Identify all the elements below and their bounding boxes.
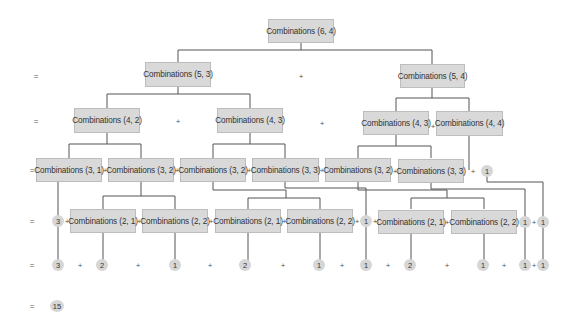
node-label: Combinations (5, 4) xyxy=(398,72,468,81)
value-circle: 1 xyxy=(169,259,181,271)
value-circle: 1 xyxy=(481,165,493,177)
node-label: Combinations (4, 3) xyxy=(215,116,285,125)
node-combinations-5-4: Combinations (5, 4) xyxy=(400,64,465,88)
plus-sign: + xyxy=(532,261,537,270)
node-label: Combinations (3, 2) xyxy=(106,166,176,175)
value-text: 2 xyxy=(408,261,412,270)
node-combinations-2-2: Combinations (2, 2) xyxy=(142,209,208,233)
total-value-text: 15 xyxy=(53,302,61,311)
node-combinations-3-1: Combinations (3, 1) xyxy=(36,158,102,182)
plus-sign: + xyxy=(355,217,360,226)
node-label: Combinations (2, 1) xyxy=(213,217,283,226)
plus-sign: + xyxy=(176,117,181,126)
value-circle: 2 xyxy=(96,259,108,271)
node-label: Combinations (4, 4) xyxy=(435,119,505,128)
plus-sign: + xyxy=(320,119,325,128)
node-label: Combinations (4, 3) xyxy=(361,119,431,128)
node-combinations-3-3: Combinations (3, 3) xyxy=(252,158,319,182)
value-text: 1 xyxy=(364,217,368,226)
value-circle: 3 xyxy=(52,215,64,227)
value-circle: 1 xyxy=(519,259,531,271)
node-label: Combinations (2, 2) xyxy=(285,217,355,226)
value-text: 1 xyxy=(541,261,545,270)
node-combinations-2-1: Combinations (2, 1) xyxy=(215,209,281,233)
node-label: Combinations (3, 2) xyxy=(323,166,393,175)
plus-sign: + xyxy=(208,261,213,270)
value-text: 1 xyxy=(317,261,321,270)
node-combinations-5-3: Combinations (5, 3) xyxy=(145,62,211,87)
value-circle: 1 xyxy=(313,259,325,271)
node-combinations-2-1: Combinations (2, 1) xyxy=(378,210,444,234)
value-text: 3 xyxy=(56,217,60,226)
plus-sign: + xyxy=(78,261,83,270)
plus-sign: + xyxy=(532,218,537,227)
value-text: 1 xyxy=(523,261,527,270)
value-text: 1 xyxy=(541,218,545,227)
value-text: 1 xyxy=(481,261,485,270)
value-text: 1 xyxy=(523,218,527,227)
value-circle: 2 xyxy=(404,259,416,271)
node-label: Combinations (2, 1) xyxy=(376,218,446,227)
node-combinations-6-4: Combinations (6, 4) xyxy=(268,19,334,43)
value-circle: 1 xyxy=(537,216,549,228)
value-text: 1 xyxy=(364,261,368,270)
equals-sign: = xyxy=(34,72,39,81)
value-circle: 3 xyxy=(52,259,64,271)
value-text: 3 xyxy=(56,261,60,270)
value-text: 2 xyxy=(243,261,247,270)
value-circle: 2 xyxy=(239,259,251,271)
node-label: Combinations (3, 3) xyxy=(396,167,466,176)
node-combinations-3-2: Combinations (3, 2) xyxy=(325,158,391,182)
node-combinations-3-2: Combinations (3, 2) xyxy=(180,158,246,182)
combinations-tree-diagram: Combinations (6, 4) = Combinations (5, 3… xyxy=(0,0,573,315)
plus-sign: + xyxy=(281,261,286,270)
node-label: Combinations (3, 2) xyxy=(178,166,248,175)
value-circle: 1 xyxy=(477,259,489,271)
node-label: Combinations (6, 4) xyxy=(266,27,336,36)
node-label: Combinations (2, 2) xyxy=(449,218,519,227)
node-combinations-4-3: Combinations (4, 3) xyxy=(217,108,283,133)
equals-sign: = xyxy=(30,217,35,226)
plus-sign: + xyxy=(502,261,507,270)
value-circle: 1 xyxy=(519,216,531,228)
value-text: 1 xyxy=(173,261,177,270)
node-combinations-2-2: Combinations (2, 2) xyxy=(451,210,517,234)
value-text: 1 xyxy=(485,167,489,176)
equals-sign: = xyxy=(30,302,35,311)
plus-sign: + xyxy=(471,167,476,176)
node-combinations-4-4: Combinations (4, 4) xyxy=(436,111,503,136)
node-label: Combinations (2, 2) xyxy=(140,217,210,226)
value-circle: 1 xyxy=(360,215,372,227)
plus-sign: + xyxy=(299,72,304,81)
node-combinations-4-3: Combinations (4, 3) xyxy=(363,111,429,135)
value-circle: 1 xyxy=(537,259,549,271)
node-combinations-3-3: Combinations (3, 3) xyxy=(398,159,464,183)
plus-sign: + xyxy=(340,261,345,270)
equals-sign: = xyxy=(34,117,39,126)
node-combinations-4-2: Combinations (4, 2) xyxy=(74,108,140,133)
node-combinations-3-2: Combinations (3, 2) xyxy=(108,158,174,182)
node-label: Combinations (2, 1) xyxy=(68,217,138,226)
plus-sign: + xyxy=(445,261,450,270)
plus-sign: + xyxy=(136,261,141,270)
value-circle: 1 xyxy=(360,259,372,271)
plus-sign: + xyxy=(386,261,391,270)
node-combinations-2-1: Combinations (2, 1) xyxy=(70,209,136,233)
node-label: Combinations (3, 3) xyxy=(251,166,321,175)
total-value-circle: 15 xyxy=(50,300,64,312)
node-label: Combinations (4, 2) xyxy=(72,116,142,125)
node-combinations-2-2: Combinations (2, 2) xyxy=(287,209,353,233)
node-label: Combinations (3, 1) xyxy=(34,166,104,175)
equals-sign: = xyxy=(30,261,35,270)
value-text: 2 xyxy=(100,261,104,270)
node-label: Combinations (5, 3) xyxy=(143,70,213,79)
